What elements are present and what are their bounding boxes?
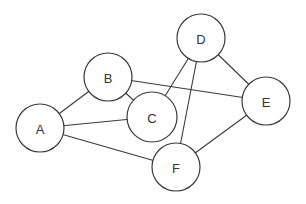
node-label-f: F bbox=[172, 161, 180, 176]
node-label-e: E bbox=[262, 95, 271, 110]
node-label-b: B bbox=[104, 71, 113, 86]
node-label-d: D bbox=[196, 32, 205, 47]
node-label-a: A bbox=[36, 122, 45, 137]
graph-svg: ABCDEF bbox=[0, 0, 306, 204]
node-f: F bbox=[152, 143, 200, 191]
node-d: D bbox=[177, 14, 225, 62]
nodes-layer: ABCDEF bbox=[16, 14, 290, 191]
node-b: B bbox=[84, 53, 132, 101]
node-a: A bbox=[16, 104, 64, 152]
node-e: E bbox=[242, 77, 290, 125]
node-label-c: C bbox=[147, 111, 156, 126]
graph-diagram: ABCDEF bbox=[0, 0, 306, 204]
node-c: C bbox=[127, 92, 177, 142]
